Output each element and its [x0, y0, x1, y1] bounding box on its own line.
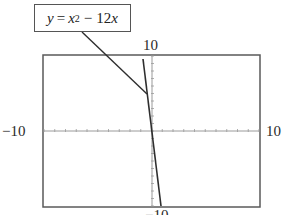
label-minus: − [84, 10, 92, 27]
ymax-label: 10 [143, 38, 158, 53]
xmax-label: 10 [266, 124, 281, 139]
label-exponent: 2 [75, 13, 80, 24]
function-label-box: y = x2 − 12x [34, 4, 131, 32]
label-equals: = [57, 10, 65, 27]
label-x: x [68, 10, 75, 27]
graph-canvas [0, 0, 284, 215]
label-coefficient: 12 [96, 10, 111, 27]
label-x-term: x [111, 10, 118, 27]
xmin-label: −10 [2, 124, 25, 139]
label-y: y [47, 10, 54, 27]
label-leader-line [82, 32, 147, 94]
ymin-label: −10 [145, 208, 168, 215]
